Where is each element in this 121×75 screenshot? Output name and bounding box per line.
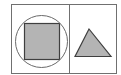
diagram-canvas (0, 0, 121, 75)
shaded-square (25, 24, 60, 60)
